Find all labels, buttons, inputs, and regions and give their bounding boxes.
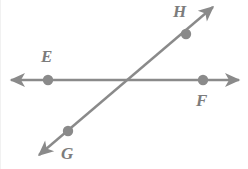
- point-label-G: G: [61, 145, 73, 162]
- figure-canvas: [0, 0, 248, 169]
- point-dot-H: [181, 29, 191, 39]
- point-dot-F: [198, 75, 208, 85]
- point-dot-E: [43, 75, 53, 85]
- point-label-F: F: [196, 92, 207, 109]
- point-dot-G: [63, 126, 73, 136]
- point-label-H: H: [173, 3, 186, 20]
- geometry-figure: E F H G: [0, 0, 248, 169]
- point-label-E: E: [41, 48, 52, 65]
